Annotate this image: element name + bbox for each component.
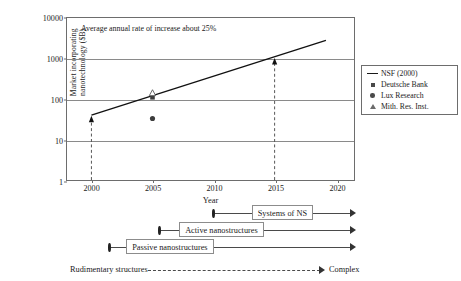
legend-entry[interactable]: NSF (2000) xyxy=(365,68,454,79)
x-tick-label: 2005 xyxy=(145,184,161,193)
timeline-stage-label[interactable]: Passive nanostructures xyxy=(126,239,213,254)
circle-marker-icon xyxy=(365,93,380,98)
triangle-marker-icon xyxy=(365,104,380,109)
legend-entry[interactable]: Deutsche Bank xyxy=(365,79,454,90)
timeline-dashed-connector xyxy=(148,270,320,271)
triangle-marker-icon-glyph xyxy=(370,104,376,109)
legend-entry[interactable]: Lux Research xyxy=(365,90,454,101)
line-key-icon xyxy=(365,73,380,74)
square-marker-icon-glyph xyxy=(371,83,375,87)
y-tick-label: 10000 xyxy=(43,14,63,23)
circle-marker xyxy=(150,116,155,121)
legend-entry-label: NSF (2000) xyxy=(380,69,418,78)
circle-marker-icon-glyph xyxy=(370,93,375,98)
timeline-row: Active nanostructures xyxy=(0,222,461,238)
timeline-row: Passive nanostructures xyxy=(0,239,461,255)
timeline-start-marker xyxy=(108,243,111,252)
y-tick-label: 1000 xyxy=(47,55,63,64)
chart-legend: NSF (2000)Deutsche BankLux ResearchMith.… xyxy=(361,65,458,115)
nanotechnology-market-figure: Market incorporating nanotechnology ($B)… xyxy=(0,0,461,281)
nanostructure-generations-timeline: Systems of NSActive nanostructuresPassiv… xyxy=(0,205,461,281)
x-tick-mark xyxy=(338,180,339,183)
y-tick-label: 100 xyxy=(51,96,63,105)
nsf-trend-line xyxy=(91,40,325,115)
x-tick-mark xyxy=(276,180,277,183)
timeline-stage-label[interactable]: Systems of NS xyxy=(252,205,313,220)
y-tick-label: 1 xyxy=(59,178,63,187)
timeline-start-marker xyxy=(158,226,161,235)
legend-entry-label: Deutsche Bank xyxy=(380,80,428,89)
square-marker-icon xyxy=(365,83,380,87)
x-tick-mark xyxy=(92,180,93,183)
timeline-row: Systems of NS xyxy=(0,205,461,221)
x-tick-label: 2010 xyxy=(206,184,222,193)
y-tick-mark xyxy=(64,182,67,183)
x-axis-title: Year xyxy=(66,196,355,205)
endpoint-arrow-marker xyxy=(89,116,94,123)
timeline-arrow-icon xyxy=(350,226,356,234)
chart-plot-area: Market incorporating nanotechnology ($B)… xyxy=(66,17,355,181)
chart-data-layer xyxy=(67,18,354,180)
endpoint-arrow-marker xyxy=(272,58,277,65)
triangle-marker xyxy=(149,90,155,96)
x-tick-mark xyxy=(153,180,154,183)
timeline-start-label: Rudimentary structures xyxy=(70,263,148,277)
y-tick-label: 10 xyxy=(55,137,63,146)
timeline-complexity-axis: Rudimentary structures Complex xyxy=(0,263,461,279)
timeline-arrow-icon xyxy=(350,209,356,217)
legend-entry-label: Mith. Res. Inst. xyxy=(380,102,429,111)
timeline-arrow-icon xyxy=(350,243,356,251)
line-key-icon-glyph xyxy=(367,73,378,74)
legend-entry[interactable]: Mith. Res. Inst. xyxy=(365,101,454,112)
x-tick-label: 2020 xyxy=(329,184,345,193)
timeline-end-label: Complex xyxy=(329,263,359,277)
legend-entry-label: Lux Research xyxy=(380,91,423,100)
timeline-stage-label[interactable]: Active nanostructures xyxy=(179,222,264,237)
timeline-dashed-arrow-icon xyxy=(319,266,325,274)
x-tick-mark xyxy=(215,180,216,183)
x-tick-label: 2015 xyxy=(268,184,284,193)
timeline-start-marker xyxy=(212,209,215,218)
x-tick-label: 2000 xyxy=(84,184,100,193)
